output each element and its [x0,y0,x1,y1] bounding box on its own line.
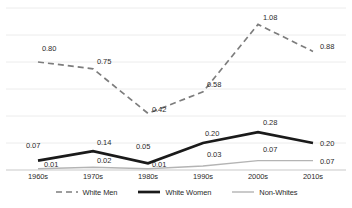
legend-label-white-men: White Men [83,188,118,197]
x-tick-1960s: 1960s [16,172,60,181]
gridlines [6,8,346,143]
data-label-white-women-1960s: 0.07 [26,141,40,150]
data-label-white-women-2010s: 0.20 [320,139,334,148]
series-line-white-men [38,24,313,113]
legend-dashed-line-icon [55,188,79,196]
legend-label-non-whites: Non-Whites [259,188,297,197]
x-tick-2000s: 2000s [236,172,280,181]
x-tick-1990s: 1990s [181,172,225,181]
x-tick-1980s: 1980s [126,172,170,181]
data-label-white-men-1960s: 0.80 [42,44,56,53]
data-label-non-whites-1960s: 0.01 [44,160,58,169]
x-tick-2010s: 2010s [291,172,335,181]
data-label-white-men-1970s: 0.75 [97,57,111,66]
series-line-non-whites [38,161,313,169]
data-label-white-men-1980s: 0.42 [152,105,166,114]
data-label-white-women-1970s: 0.14 [97,138,111,147]
data-label-white-women-1980s: 0.05 [136,142,150,151]
legend-solid-thin-line-icon [231,188,255,196]
line-chart: 0.80 0.75 0.42 0.58 1.08 0.88 0.07 0.14 … [0,0,352,208]
cropped-caption-sliver [0,202,352,208]
data-label-white-women-2000s: 0.28 [263,118,277,127]
legend-label-white-women: White Women [165,188,211,197]
data-label-non-whites-1980s: 0.01 [152,160,166,169]
data-label-non-whites-1970s: 0.02 [97,156,111,165]
legend-item-white-men[interactable]: White Men [55,188,118,197]
x-tick-1970s: 1970s [71,172,115,181]
data-label-white-men-2010s: 0.88 [320,42,334,51]
data-label-non-whites-2000s: 0.07 [263,145,277,154]
data-label-non-whites-1990s: 0.03 [207,150,221,159]
legend-solid-bold-line-icon [137,188,161,196]
legend-item-white-women[interactable]: White Women [137,188,211,197]
chart-legend: White Men White Women Non-Whites [0,184,352,200]
data-label-white-men-1990s: 0.58 [207,80,221,89]
legend-item-non-whites[interactable]: Non-Whites [231,188,297,197]
data-label-white-men-2000s: 1.08 [263,13,277,22]
data-label-non-whites-2010s: 0.07 [320,157,334,166]
data-label-white-women-1990s: 0.20 [205,129,219,138]
